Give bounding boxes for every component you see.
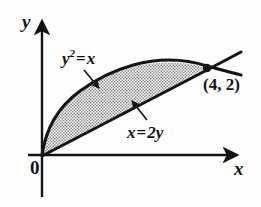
line-eq-operator: = — [136, 123, 148, 142]
parabola-eq-base: y — [62, 49, 70, 68]
parabola-eq-rhs: x — [87, 49, 96, 68]
parabola-eq-operator: = — [75, 49, 87, 68]
origin-label: 0 — [30, 158, 40, 177]
x-axis-label: x — [234, 159, 244, 178]
shaded-region — [42, 63, 207, 155]
parabola-equation-label: y2=x — [62, 48, 95, 67]
intersection-point-label: (4, 2) — [203, 76, 240, 93]
math-figure: y x 0 y2=x x=2y (4, 2) — [0, 0, 261, 207]
intersection-point-marker — [203, 64, 211, 72]
line-equation-label: x=2y — [127, 124, 163, 141]
line-eq-lhs: x — [127, 123, 136, 142]
y-axis-label: y — [22, 12, 30, 31]
line-eq-rhs: 2y — [147, 123, 163, 142]
